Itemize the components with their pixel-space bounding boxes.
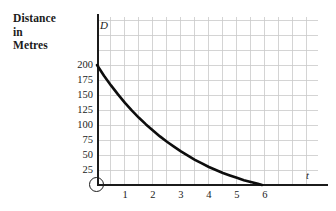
x-axis-symbol-label: t — [306, 170, 309, 181]
x-axis-tick-labels: 123456 — [97, 0, 336, 211]
x-axis-tick-label: 2 — [141, 190, 165, 201]
y-axis-tick-label: 125 — [59, 105, 93, 116]
y-axis-tick-label: 200 — [59, 60, 93, 71]
y-axis-tick-label: 25 — [59, 165, 93, 176]
y-axis-tick-label: 100 — [59, 120, 93, 131]
y-axis-tick-label: 75 — [59, 135, 93, 146]
y-axis-tick-label: 175 — [59, 75, 93, 86]
y-axis-symbol-label: D — [100, 19, 108, 31]
origin-marker-circle — [89, 177, 104, 192]
y-axis-tick-labels: 255075100125150175200 — [57, 0, 93, 211]
x-axis-tick-label: 4 — [197, 190, 221, 201]
x-axis-tick-label: 6 — [253, 190, 277, 201]
y-axis-tick-label: 150 — [59, 90, 93, 101]
x-axis-tick-label: 5 — [225, 190, 249, 201]
x-axis-tick-label: 3 — [169, 190, 193, 201]
graph-screenshot: Distance in Metres 255075100125150175200… — [0, 0, 336, 211]
y-axis-tick-label: 50 — [59, 150, 93, 161]
x-axis-tick-label: 1 — [113, 190, 137, 201]
